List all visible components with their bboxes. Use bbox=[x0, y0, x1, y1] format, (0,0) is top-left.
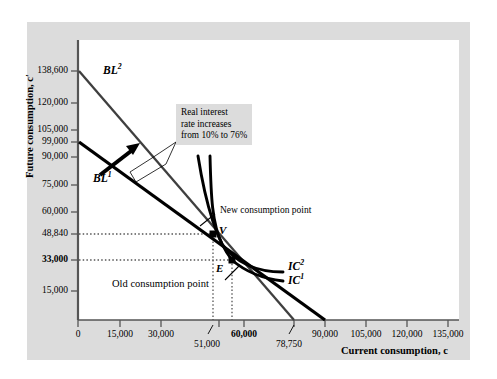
new-consumption-point-caption: New consumption point bbox=[220, 205, 311, 217]
x-axis-title: Current consumption, c bbox=[341, 345, 448, 356]
note-line-1: Real interest bbox=[181, 107, 247, 119]
y-tick-label: 120,000 bbox=[0, 97, 68, 107]
note-line-3: from 10% to 76% bbox=[181, 130, 247, 142]
y-tick-label: 138,600 bbox=[0, 65, 68, 75]
point-label-v: V bbox=[219, 224, 226, 236]
y-tick-label: 75,000 bbox=[0, 179, 68, 189]
chart-svg bbox=[0, 0, 497, 379]
note-line-2: rate increases bbox=[181, 119, 247, 131]
rate-increase-note: Real interest rate increases from 10% to… bbox=[176, 104, 252, 145]
x-tick-label: 51,000 bbox=[183, 339, 231, 349]
indifference-curve-2-label: IC2 bbox=[288, 258, 304, 272]
x-tick-label: 0 bbox=[63, 329, 93, 339]
budget-line-1-label: BL1 bbox=[93, 170, 112, 184]
y-tick-label: 15,000 bbox=[0, 285, 68, 295]
budget-line-2-label: BL2 bbox=[103, 62, 122, 76]
y-tick-label: 99,000 bbox=[0, 136, 68, 146]
x-axis-ticks bbox=[78, 320, 448, 327]
leader-old-point bbox=[225, 265, 240, 280]
old-consumption-point-caption: Old consumption point bbox=[112, 278, 209, 290]
guide-lines bbox=[79, 234, 232, 320]
y-tick-label: 33,000 bbox=[0, 254, 68, 264]
y-tick-label: 48,840 bbox=[0, 228, 68, 238]
y-tick-label: 90,000 bbox=[0, 151, 68, 161]
point-marker-v bbox=[210, 231, 217, 238]
indifference-curve-1-label: IC1 bbox=[288, 272, 304, 286]
x-tick-label: 78,750 bbox=[265, 339, 313, 349]
y-tick-label: 60,000 bbox=[0, 206, 68, 216]
y-tick-label: 105,000 bbox=[0, 124, 68, 134]
point-marker-e bbox=[229, 257, 236, 264]
x-tick-label: 135,000 bbox=[421, 329, 475, 339]
figure-container: Future consumption, c′ 138,600 120,000 1… bbox=[0, 0, 497, 379]
x-tick-label: 30,000 bbox=[137, 329, 185, 339]
point-label-e: E bbox=[216, 262, 223, 274]
budget-line-1 bbox=[79, 142, 325, 320]
x-tick-label: 60,000 bbox=[220, 329, 268, 339]
